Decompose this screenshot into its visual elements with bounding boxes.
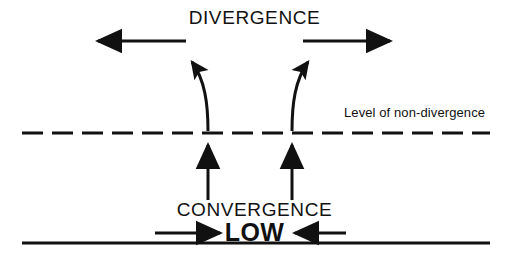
low-pressure-label: LOW [0,220,509,245]
outflow-curve-left [192,62,208,131]
convergence-label: CONVERGENCE [0,200,509,219]
level-of-non-divergence-label: Level of non-divergence [344,106,485,119]
outflow-curve-right [292,62,308,131]
diagram-canvas: DIVERGENCE Level of non-divergence CONVE… [0,0,509,258]
divergence-label: DIVERGENCE [0,8,509,27]
